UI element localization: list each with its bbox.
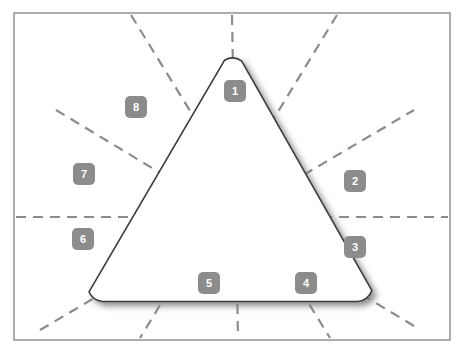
badge-8[interactable]: 8 <box>125 96 147 118</box>
badge-7[interactable]: 7 <box>73 163 95 185</box>
badge-4[interactable]: 4 <box>295 272 317 294</box>
badge-1[interactable]: 1 <box>224 80 246 102</box>
badge-3[interactable]: 3 <box>344 236 366 258</box>
diagram-svg <box>0 0 464 352</box>
badge-6[interactable]: 6 <box>72 228 94 250</box>
badge-5[interactable]: 5 <box>198 272 220 294</box>
figure-canvas: 1 2 3 4 5 6 7 8 <box>0 0 464 352</box>
badge-2[interactable]: 2 <box>344 170 366 192</box>
